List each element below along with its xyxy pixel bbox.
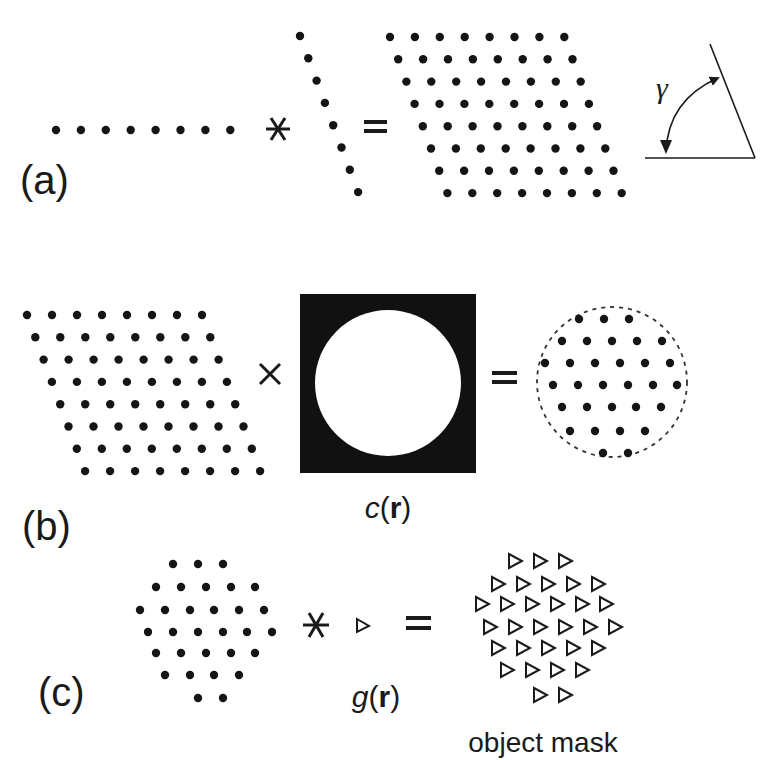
triangle-object: [526, 597, 539, 611]
lattice-point: [202, 583, 210, 591]
triangle-object: [567, 577, 580, 591]
lattice-point: [543, 55, 551, 63]
triangle-object: [492, 641, 505, 655]
lattice-point: [181, 467, 189, 475]
lattice-point: [148, 445, 156, 453]
object-mask-label: object mask: [468, 727, 618, 758]
lattice-point: [156, 400, 164, 408]
lattice-point: [510, 167, 518, 175]
lattice-point: [89, 422, 97, 430]
lattice-point: [657, 403, 665, 411]
lattice-point: [402, 77, 410, 85]
lattice-point: [114, 355, 122, 363]
lattice-point: [435, 167, 443, 175]
lattice-point: [181, 333, 189, 341]
lattice-point: [164, 422, 172, 430]
lattice-point: [131, 333, 139, 341]
lattice-point: [583, 337, 591, 345]
lattice-point: [558, 403, 566, 411]
lattice-point: [624, 449, 632, 457]
convolution-asterisk-icon: [303, 613, 329, 637]
triangle-object: [534, 620, 547, 634]
lattice-point: [329, 121, 337, 129]
lattice-point: [77, 126, 85, 134]
lattice-point: [169, 560, 177, 568]
lattice-point: [312, 76, 320, 84]
lattice-point: [346, 166, 354, 174]
lattice-point: [194, 628, 202, 636]
lattice-point: [560, 167, 568, 175]
lattice-point: [148, 311, 156, 319]
lattice-point: [608, 403, 616, 411]
lattice-point: [526, 144, 534, 152]
lattice-point: [156, 333, 164, 341]
lattice-point: [186, 671, 194, 679]
lattice-point: [64, 422, 72, 430]
lattice-point: [485, 33, 493, 41]
lattice-point: [227, 649, 235, 657]
lattice-point: [106, 333, 114, 341]
equals-icon: [406, 616, 431, 630]
lattice-convolution-figure: γ (a) c(r) (b) g(r): [0, 0, 780, 760]
lattice-point: [658, 337, 666, 345]
lattice-point: [148, 378, 156, 386]
lattice-point: [419, 55, 427, 63]
lattice-point: [123, 445, 131, 453]
lattice-point: [632, 403, 640, 411]
slanted-lattice: [296, 32, 363, 197]
lattice-point: [535, 167, 543, 175]
lattice-point: [56, 333, 64, 341]
lattice-point: [231, 467, 239, 475]
lattice-point: [152, 649, 160, 657]
lattice-point: [123, 311, 131, 319]
lattice-point: [223, 445, 231, 453]
lattice-point: [231, 400, 239, 408]
triangle-object: [526, 663, 539, 677]
triangle-object: [559, 620, 572, 634]
lattice-point: [461, 33, 469, 41]
lattice-point: [73, 445, 81, 453]
lattice-point: [585, 100, 593, 108]
lattice-point: [460, 100, 468, 108]
lattice-point: [152, 583, 160, 591]
lattice-point: [251, 649, 259, 657]
lattice-point: [593, 122, 601, 130]
lattice-point: [164, 355, 172, 363]
lattice-point: [210, 671, 218, 679]
kernel-label: g(r): [352, 680, 400, 713]
lattice-point: [161, 606, 169, 614]
lattice-point: [502, 144, 510, 152]
lattice-point: [337, 143, 345, 151]
lattice-point: [641, 359, 649, 367]
lattice-point: [452, 144, 460, 152]
lattice-point: [251, 583, 259, 591]
lattice-point: [435, 100, 443, 108]
lattice-point: [56, 400, 64, 408]
lattice-point: [452, 77, 460, 85]
lattice-point: [485, 167, 493, 175]
convolution-asterisk-icon: [266, 118, 290, 140]
lattice-point: [235, 606, 243, 614]
lattice-point: [354, 188, 362, 196]
lattice-point: [616, 359, 624, 367]
triangle-object: [567, 641, 580, 655]
lattice-point: [575, 315, 583, 323]
lattice-point: [39, 355, 47, 363]
lattice-point: [321, 99, 329, 107]
lattice-point: [584, 167, 592, 175]
lattice-point: [568, 122, 576, 130]
lattice-point: [576, 144, 584, 152]
lattice-point: [106, 467, 114, 475]
lattice-point: [98, 311, 106, 319]
triangle-object: [576, 663, 589, 677]
lattice-point: [73, 378, 81, 386]
triangle-object: [509, 554, 522, 568]
lattice-point: [633, 337, 641, 345]
lattice-point: [161, 671, 169, 679]
triangle-object: [534, 554, 547, 568]
lattice-point: [527, 77, 535, 85]
lattice-point: [189, 422, 197, 430]
lattice-point: [52, 126, 60, 134]
angle-diagram: γ: [645, 44, 755, 158]
triangle-object: [600, 597, 613, 611]
